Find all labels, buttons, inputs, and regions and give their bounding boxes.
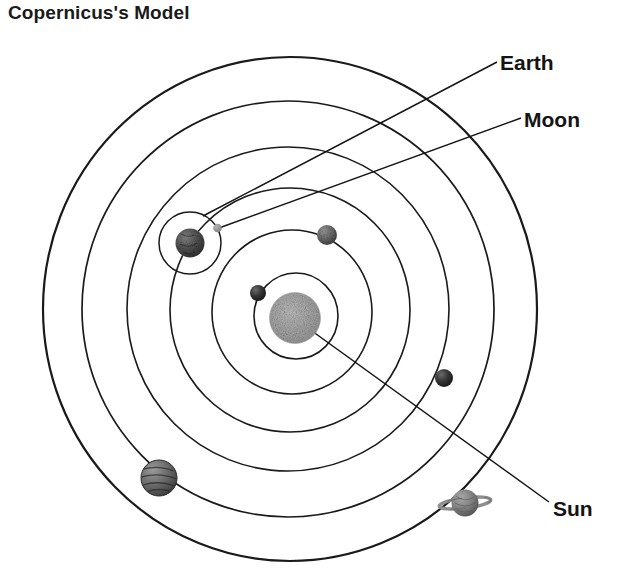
planet-saturn (439, 490, 492, 517)
planet-earth (176, 229, 205, 258)
label-sun: Sun (553, 497, 593, 520)
planet-venus (435, 369, 453, 387)
leader-line-earth (203, 62, 497, 216)
planet-mars (317, 225, 337, 245)
planet-jupiter (141, 460, 177, 496)
copernicus-model-figure: Copernicus's Model (0, 0, 631, 575)
leader-line-sun (305, 326, 549, 502)
leader-lines (203, 62, 549, 502)
leader-line-moon (219, 118, 521, 228)
sun-body (270, 293, 321, 344)
label-earth: Earth (500, 51, 554, 74)
label-moon: Moon (524, 108, 580, 131)
planet-mercury (250, 285, 266, 301)
moon-body (213, 224, 222, 233)
solar-system-canvas: Earth Moon Sun (0, 0, 631, 575)
